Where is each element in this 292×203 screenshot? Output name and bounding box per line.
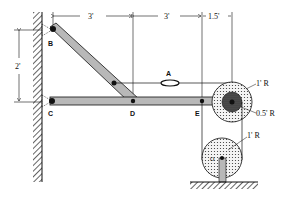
wall [33,12,42,182]
dim-left: 2' [15,62,21,71]
label-o: O [210,156,215,162]
member-c-to-pulley [50,97,234,105]
dim-top-1: 3' [88,12,94,21]
label-upper-outer-radius: 1' R [256,79,269,88]
pin-d [131,99,135,103]
pin-bd-mid [112,81,117,86]
label-lower-radius: 1' R [247,131,260,140]
link-a [161,80,179,86]
mechanism-diagram: 3' 3' 1.5' 2' A 1' R 0.5' R 1' R O [0,0,292,203]
pin-e [200,99,204,103]
label-a: A [166,70,171,77]
label-d: D [130,110,135,117]
label-upper-inner-radius: 0.5' R [256,109,275,118]
member-bd [50,23,139,103]
upper-pulley [212,82,252,122]
label-c: C [48,110,53,117]
ground [190,182,258,189]
dim-top-2: 3' [164,12,170,21]
label-b: B [48,40,53,47]
label-e: E [195,110,200,117]
dim-top-3: 1.5' [208,12,220,21]
top-dimensions [53,12,232,100]
pin-b [50,26,56,32]
pin-c [49,98,55,104]
